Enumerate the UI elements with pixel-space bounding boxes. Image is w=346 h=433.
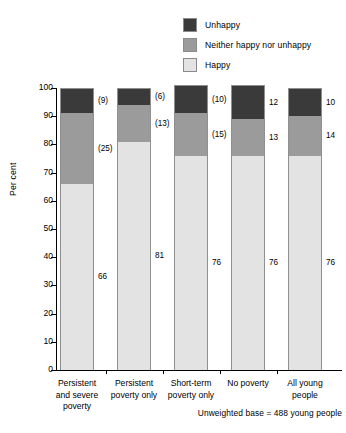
bar-value-label: (25) — [98, 144, 113, 153]
legend-swatch-unhappy — [183, 18, 197, 32]
y-tick-label: 60 — [43, 195, 53, 206]
legend-label-happy: Happy — [205, 60, 230, 70]
bar-value-label: (6) — [155, 92, 165, 101]
bar-value-label: (10) — [212, 95, 227, 104]
bar-segment[interactable] — [117, 142, 151, 370]
y-axis-title: Per cent — [8, 162, 18, 196]
bar-value-label: (13) — [155, 119, 170, 128]
x-category-label-line: poverty only — [160, 390, 222, 402]
bar-segment[interactable] — [231, 119, 265, 156]
y-tick-label: 70 — [43, 167, 53, 178]
bar-value-label: (9) — [98, 96, 108, 105]
bar-segment[interactable] — [60, 184, 94, 370]
bar-value-label: 14 — [326, 131, 335, 140]
x-category-label-line: poverty only — [103, 390, 165, 402]
y-tick-label: 100 — [39, 82, 53, 93]
x-category-label: Short-termpoverty only — [160, 378, 222, 401]
bar-segment[interactable] — [117, 88, 151, 105]
legend-item-unhappy: Unhappy — [183, 16, 343, 34]
y-tick-label: 90 — [43, 110, 53, 121]
bar-segment[interactable] — [117, 105, 151, 142]
y-tick-label: 40 — [43, 251, 53, 262]
bar-value-label: 76 — [326, 258, 335, 267]
x-category-label-line: Persistent — [103, 378, 165, 390]
bar-stack[interactable] — [288, 88, 322, 370]
bar-segment[interactable] — [231, 156, 265, 370]
bar-stack[interactable] — [174, 85, 208, 370]
legend-swatch-neither — [183, 38, 197, 52]
bar-value-label: 81 — [155, 251, 164, 260]
bar-segment[interactable] — [288, 116, 322, 155]
bar-value-label: 13 — [269, 133, 278, 142]
x-category-label-line: All young — [274, 378, 336, 390]
bar-stack[interactable] — [60, 88, 94, 370]
x-category-label: All youngpeople — [274, 378, 336, 401]
legend-swatch-happy — [183, 58, 197, 72]
bar-stack[interactable] — [231, 85, 265, 370]
x-category-label: No poverty — [217, 378, 279, 390]
legend-item-happy: Happy — [183, 56, 343, 74]
chart-footnote: Unweighted base = 488 young people — [0, 408, 342, 418]
bar-segment[interactable] — [174, 156, 208, 370]
y-tick-label: 0 — [48, 364, 53, 375]
bar-value-label: 76 — [269, 258, 278, 267]
bar-value-label: 66 — [98, 272, 107, 281]
y-axis-line — [56, 88, 57, 370]
y-tick-label: 10 — [43, 336, 53, 347]
bar-segment[interactable] — [174, 113, 208, 155]
chart-legend: Unhappy Neither happy nor unhappy Happy — [183, 16, 343, 76]
y-tick-label: 20 — [43, 308, 53, 319]
x-category-label-line: and severe — [46, 390, 108, 402]
bar-value-label: (15) — [212, 130, 227, 139]
legend-label-unhappy: Unhappy — [205, 20, 240, 30]
x-category-label-line: No poverty — [217, 378, 279, 390]
y-tick-label: 80 — [43, 138, 53, 149]
x-category-label-line: Short-term — [160, 378, 222, 390]
bar-segment[interactable] — [288, 88, 322, 116]
y-tick-label: 50 — [43, 223, 53, 234]
bar-value-label: 76 — [212, 258, 221, 267]
x-tick-mark — [277, 370, 278, 374]
x-category-label-line: people — [274, 390, 336, 402]
bar-segment[interactable] — [174, 85, 208, 113]
x-tick-mark — [220, 370, 221, 374]
x-tick-mark — [106, 370, 107, 374]
legend-item-neither: Neither happy nor unhappy — [183, 36, 343, 54]
x-axis-line — [56, 370, 342, 371]
bar-value-label: 12 — [269, 98, 278, 107]
bar-segment[interactable] — [288, 156, 322, 370]
y-tick-label: 30 — [43, 279, 53, 290]
bar-stack[interactable] — [117, 88, 151, 370]
x-tick-mark — [163, 370, 164, 374]
bar-value-label: 10 — [326, 98, 335, 107]
bar-segment[interactable] — [231, 85, 265, 119]
chart-plot-area: 0102030405060708090100 66(25)(9)81(13)(6… — [56, 88, 342, 370]
x-category-label-line: Persistent — [46, 378, 108, 390]
bar-segment[interactable] — [60, 88, 94, 113]
bar-segment[interactable] — [60, 113, 94, 184]
legend-label-neither: Neither happy nor unhappy — [205, 40, 311, 50]
x-category-label: Persistentpoverty only — [103, 378, 165, 401]
